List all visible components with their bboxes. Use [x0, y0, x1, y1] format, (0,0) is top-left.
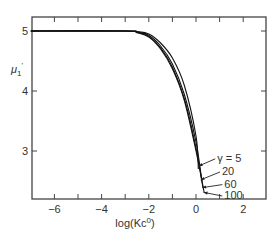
x-tick-label: −6 [48, 203, 61, 215]
y-tick-label: 5 [22, 25, 28, 37]
y-tick-label: 4 [22, 85, 28, 97]
x-tick-label: −4 [95, 203, 108, 215]
curve-annotations: γ = 52060100 [199, 152, 243, 201]
series-line [31, 31, 202, 181]
y-tick-label: 3 [22, 145, 28, 157]
data-series [31, 31, 204, 193]
x-tick-label: 2 [240, 203, 246, 215]
x-tick-label: −2 [143, 203, 156, 215]
annotation-label: 100 [224, 189, 242, 201]
annotation-label: 60 [224, 178, 236, 190]
chart: −6−4−202345 γ = 52060100 log(Kc0) μ1' [0, 0, 279, 235]
x-axis-label: log(Kc0) [115, 216, 154, 229]
series-line [31, 31, 204, 193]
annotation-label: 20 [222, 165, 234, 177]
y-axis-label: μ1' [10, 61, 23, 78]
x-tick-label: 0 [193, 203, 199, 215]
annotation-label: γ = 5 [217, 152, 241, 164]
series-line [31, 31, 199, 169]
series-line [31, 31, 203, 188]
